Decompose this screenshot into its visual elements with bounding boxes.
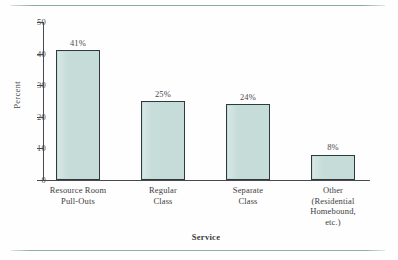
x-category-label-other-residential-homebound: Other (Residential Homebound, etc.) bbox=[284, 185, 382, 227]
bar-regular-class[interactable] bbox=[141, 101, 185, 180]
y-tick-label-0: 0 bbox=[6, 176, 46, 185]
x-axis-title: Service bbox=[160, 232, 252, 242]
y-tick-label-10: 10 bbox=[6, 144, 46, 153]
x-category-label-resource-room-pull-outs: Resource Room Pull-Outs bbox=[29, 185, 127, 206]
x-category-label-regular-class: Regular Class bbox=[114, 185, 212, 206]
bar-value-resource-room-pull-outs: 41% bbox=[43, 38, 113, 48]
x-category-line: etc.) bbox=[284, 217, 382, 228]
x-category-line: Homebound, bbox=[284, 206, 382, 217]
x-axis-line bbox=[43, 180, 370, 181]
x-category-line: Class bbox=[114, 196, 212, 207]
bar-value-other-residential-homebound: 8% bbox=[298, 142, 368, 152]
x-category-line: Regular bbox=[114, 185, 212, 196]
x-category-line: Resource Room bbox=[29, 185, 127, 196]
bar-resource-room-pull-outs[interactable] bbox=[56, 50, 100, 180]
bar-other-residential-homebound[interactable] bbox=[311, 155, 355, 180]
y-tick-label-40: 40 bbox=[6, 50, 46, 59]
x-category-line: Separate bbox=[199, 185, 297, 196]
bar-separate-class[interactable] bbox=[226, 104, 270, 180]
y-tick-label-50: 50 bbox=[6, 18, 46, 27]
y-axis-title: Percent bbox=[12, 65, 22, 125]
figure-page: 0 10 20 30 40 50 Percent 41% 25% 24% 8% … bbox=[0, 0, 398, 260]
x-category-label-separate-class: Separate Class bbox=[199, 185, 297, 206]
x-category-line: Class bbox=[199, 196, 297, 207]
bar-value-separate-class: 24% bbox=[213, 92, 283, 102]
bar-chart-plot-area: 0 10 20 30 40 50 Percent 41% 25% 24% 8% … bbox=[0, 0, 398, 260]
x-category-line: (Residential bbox=[284, 196, 382, 207]
x-category-line: Pull-Outs bbox=[29, 196, 127, 207]
bar-value-regular-class: 25% bbox=[128, 89, 198, 99]
x-category-line: Other bbox=[284, 185, 382, 196]
